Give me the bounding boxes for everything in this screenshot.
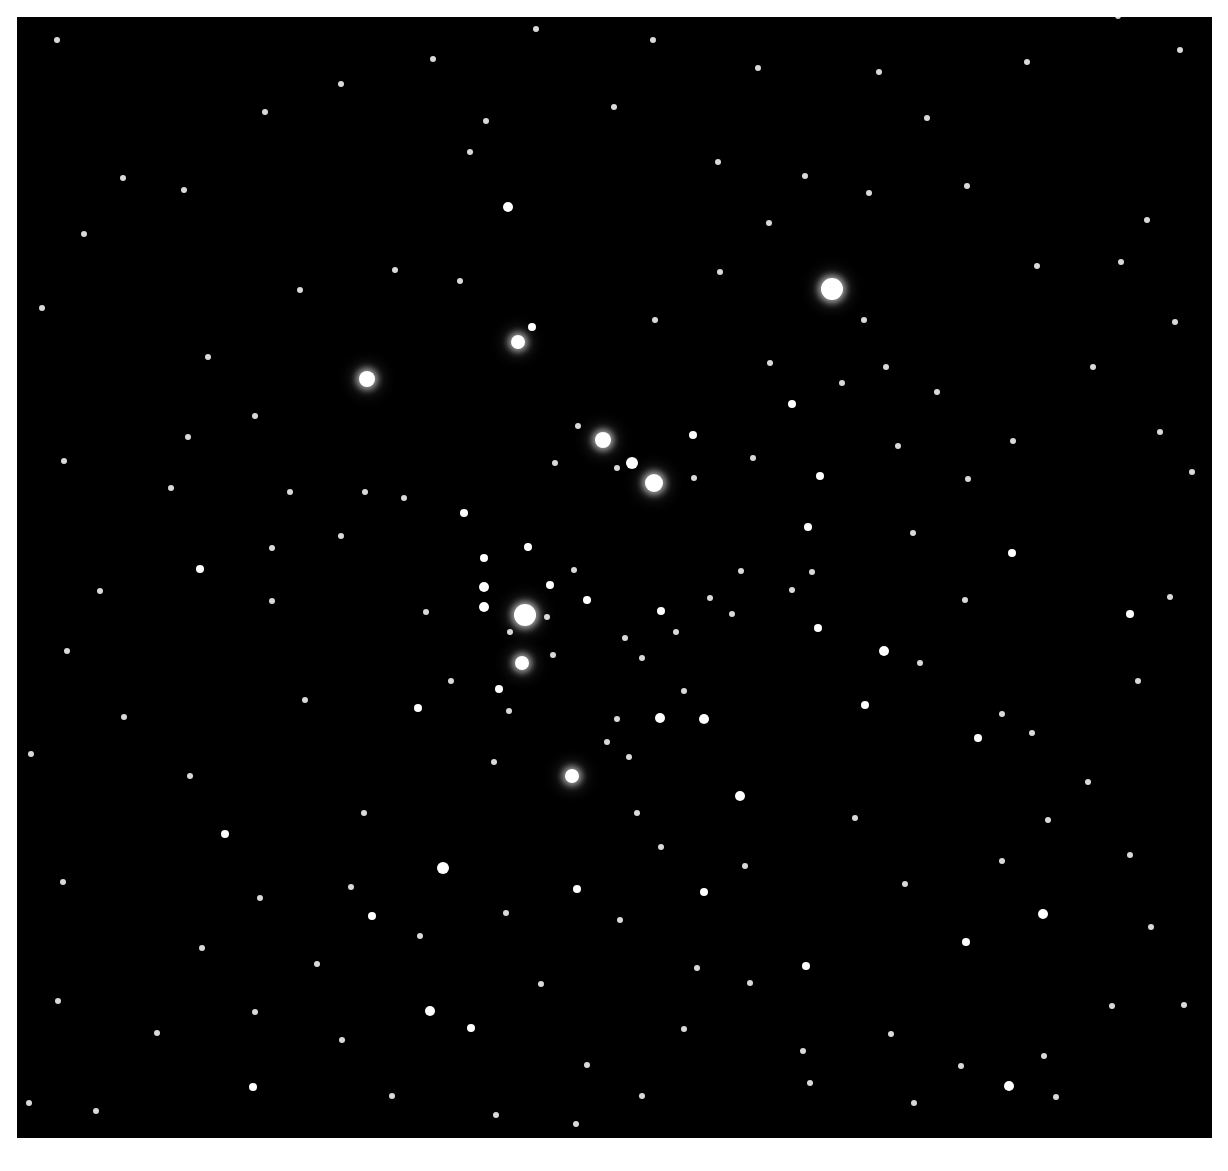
star bbox=[888, 1031, 894, 1037]
star bbox=[650, 37, 656, 43]
star bbox=[852, 815, 858, 821]
star bbox=[221, 830, 229, 838]
star bbox=[120, 175, 126, 181]
star bbox=[876, 69, 882, 75]
star bbox=[1024, 59, 1030, 65]
star bbox=[565, 769, 579, 783]
star bbox=[493, 1112, 499, 1118]
star bbox=[807, 1080, 813, 1086]
star bbox=[507, 629, 513, 635]
star bbox=[64, 648, 70, 654]
star bbox=[479, 582, 489, 592]
star bbox=[750, 455, 756, 461]
star bbox=[437, 862, 449, 874]
star bbox=[1135, 678, 1141, 684]
star bbox=[626, 457, 638, 469]
star bbox=[962, 938, 970, 946]
star bbox=[199, 945, 205, 951]
star bbox=[964, 183, 970, 189]
star bbox=[626, 754, 632, 760]
star bbox=[181, 187, 187, 193]
star bbox=[425, 1006, 435, 1016]
star bbox=[604, 739, 610, 745]
star bbox=[460, 509, 468, 517]
star bbox=[883, 364, 889, 370]
star bbox=[861, 701, 869, 709]
star bbox=[154, 1030, 160, 1036]
star bbox=[252, 413, 258, 419]
star bbox=[205, 354, 211, 360]
star bbox=[448, 678, 454, 684]
star bbox=[196, 565, 204, 573]
star bbox=[1148, 924, 1154, 930]
star bbox=[550, 652, 556, 658]
star bbox=[999, 858, 1005, 864]
star bbox=[187, 773, 193, 779]
star bbox=[1038, 909, 1048, 919]
star bbox=[511, 335, 525, 349]
star bbox=[417, 933, 423, 939]
star bbox=[1034, 263, 1040, 269]
star bbox=[1115, 17, 1121, 19]
star bbox=[861, 317, 867, 323]
star bbox=[1167, 594, 1173, 600]
star bbox=[339, 1037, 345, 1043]
star bbox=[747, 980, 753, 986]
star bbox=[257, 895, 263, 901]
star bbox=[804, 523, 812, 531]
star bbox=[614, 716, 620, 722]
star bbox=[546, 581, 554, 589]
star bbox=[691, 475, 697, 481]
star bbox=[917, 660, 923, 666]
star bbox=[655, 713, 665, 723]
star bbox=[595, 432, 611, 448]
star bbox=[1085, 779, 1091, 785]
star bbox=[571, 567, 577, 573]
star bbox=[60, 879, 66, 885]
star bbox=[302, 697, 308, 703]
star bbox=[895, 443, 901, 449]
star bbox=[1029, 730, 1035, 736]
star bbox=[802, 173, 808, 179]
star bbox=[1090, 364, 1096, 370]
star bbox=[54, 37, 60, 43]
star bbox=[742, 863, 748, 869]
star bbox=[401, 495, 407, 501]
star bbox=[338, 533, 344, 539]
star bbox=[483, 118, 489, 124]
star bbox=[1181, 1002, 1187, 1008]
star bbox=[121, 714, 127, 720]
star bbox=[39, 305, 45, 311]
star bbox=[467, 1024, 475, 1032]
star bbox=[1041, 1053, 1047, 1059]
star bbox=[634, 810, 640, 816]
star bbox=[715, 159, 721, 165]
star bbox=[839, 380, 845, 386]
star bbox=[729, 611, 735, 617]
star bbox=[314, 961, 320, 967]
star bbox=[575, 423, 581, 429]
star bbox=[480, 554, 488, 562]
star bbox=[252, 1009, 258, 1015]
star bbox=[97, 588, 103, 594]
star bbox=[879, 646, 889, 656]
star bbox=[168, 485, 174, 491]
star bbox=[544, 614, 550, 620]
star bbox=[1118, 259, 1124, 265]
star bbox=[1008, 549, 1016, 557]
star bbox=[1189, 469, 1195, 475]
star bbox=[359, 371, 375, 387]
star bbox=[269, 598, 275, 604]
star bbox=[962, 597, 968, 603]
star bbox=[866, 190, 872, 196]
star bbox=[717, 269, 723, 275]
star bbox=[503, 910, 509, 916]
star bbox=[1157, 429, 1163, 435]
star bbox=[689, 431, 697, 439]
star bbox=[1004, 1081, 1014, 1091]
star bbox=[584, 1062, 590, 1068]
star bbox=[965, 476, 971, 482]
star bbox=[503, 202, 513, 212]
star bbox=[61, 458, 67, 464]
star bbox=[81, 231, 87, 237]
